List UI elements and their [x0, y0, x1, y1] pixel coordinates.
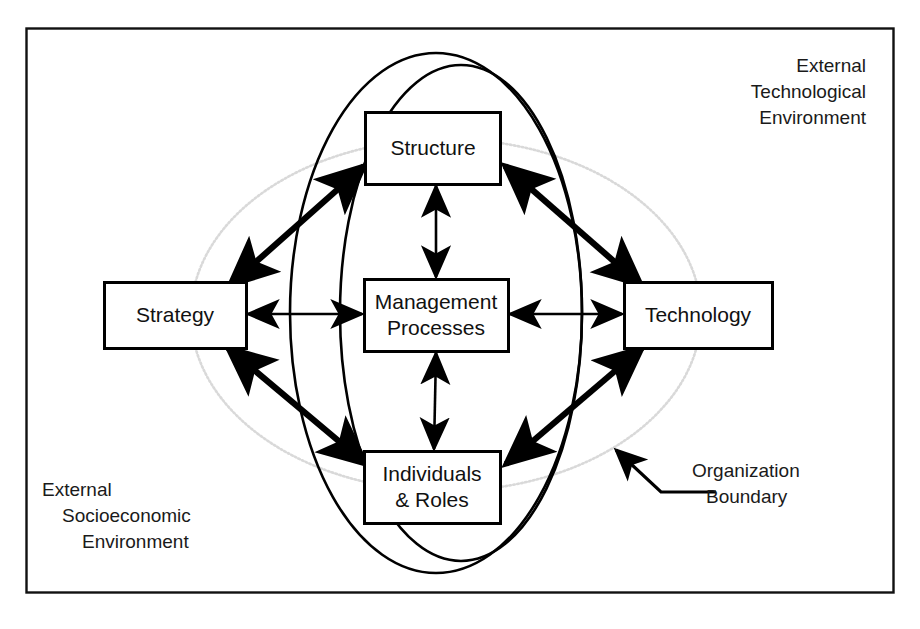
node-management-processes-label-line1: Management — [375, 290, 498, 313]
node-structure-label: Structure — [390, 136, 475, 159]
organizational-model-diagram: Structure Management Processes Individua… — [0, 0, 920, 629]
label-external-technological-environment: External Technological Environment — [751, 55, 867, 128]
connector-strategy-individuals — [228, 348, 366, 464]
external-socioeconomic-line1: External — [42, 479, 112, 500]
node-structure[interactable]: Structure — [366, 113, 501, 185]
node-technology-label: Technology — [645, 303, 752, 326]
label-organization-boundary: Organization Boundary — [692, 460, 800, 507]
organization-boundary-line2: Boundary — [706, 486, 788, 507]
external-technological-line2: Technological — [751, 81, 866, 102]
connector-management-individuals — [434, 353, 436, 449]
node-strategy[interactable]: Strategy — [105, 283, 247, 349]
external-socioeconomic-line2: Socioeconomic — [62, 505, 191, 526]
node-management-processes[interactable]: Management Processes — [365, 280, 509, 352]
connector-strategy-structure — [230, 166, 364, 285]
connector-individuals-technology — [506, 348, 642, 464]
external-socioeconomic-line3: Environment — [82, 531, 189, 552]
node-technology[interactable]: Technology — [625, 283, 773, 349]
external-technological-line1: External — [796, 55, 866, 76]
node-strategy-label: Strategy — [136, 303, 215, 326]
organization-boundary-line1: Organization — [692, 460, 800, 481]
node-individuals-roles[interactable]: Individuals & Roles — [365, 452, 501, 524]
diagram-canvas: Structure Management Processes Individua… — [0, 0, 920, 629]
node-management-processes-label-line2: Processes — [387, 316, 485, 339]
label-external-socioeconomic-environment: External Socioeconomic Environment — [42, 479, 191, 552]
node-individuals-roles-label-line2: & Roles — [395, 488, 469, 511]
external-technological-line3: Environment — [759, 107, 866, 128]
connector-structure-technology — [505, 166, 641, 285]
node-individuals-roles-label-line1: Individuals — [382, 462, 481, 485]
